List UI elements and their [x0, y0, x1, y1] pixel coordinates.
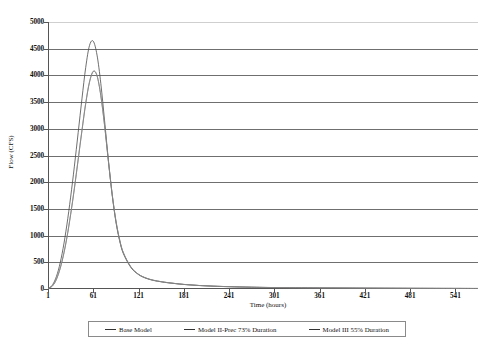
x-axis-tick-label: 301 — [269, 292, 280, 300]
x-axis-tick-label: 121 — [133, 292, 144, 300]
legend-label: Model II-Prec 73% Duration — [198, 326, 276, 333]
x-axis-tick-label: 241 — [224, 292, 235, 300]
series-line — [48, 71, 478, 288]
x-axis-tick-label: 481 — [405, 292, 416, 300]
x-axis-tick-mark — [455, 289, 456, 293]
y-axis-tick-mark — [44, 262, 49, 263]
x-axis-tick-label: 361 — [314, 292, 325, 300]
x-axis-title-text: Time (hours) — [250, 301, 287, 309]
x-axis-tick-mark — [274, 289, 275, 293]
y-axis-title-text: Flow (CFS) — [7, 135, 15, 168]
legend-swatch-icon — [184, 329, 195, 330]
legend-swatch-icon — [105, 329, 116, 330]
x-axis-tick-mark — [365, 289, 366, 293]
chart-legend: Base Model Model II-Prec 73% Duration Mo… — [88, 321, 406, 337]
x-axis-tick-mark — [229, 289, 230, 293]
x-axis-tick-mark — [93, 289, 94, 293]
legend-label: Model III 55% Duration — [323, 326, 389, 333]
x-axis-tick-mark — [139, 289, 140, 293]
y-axis-tick-label: 3500 — [30, 98, 44, 106]
y-axis-tick-label: 2000 — [30, 178, 44, 186]
hydrograph-chart: 0500100015002000250030003500400045005000… — [0, 0, 492, 351]
legend-item: Model II-Prec 73% Duration — [184, 326, 276, 333]
x-axis-tick-mark — [184, 289, 185, 293]
x-axis-tick-mark — [320, 289, 321, 293]
y-axis-tick-mark — [44, 236, 49, 237]
y-axis-tick-label: 2500 — [30, 152, 44, 160]
y-axis-tick-mark — [44, 182, 49, 183]
y-axis-tick-mark — [44, 289, 49, 290]
y-axis-tick-mark — [44, 102, 49, 103]
legend-swatch-icon — [309, 329, 320, 330]
y-axis-tick-label: 3000 — [30, 125, 44, 133]
x-axis-tick-label: 541 — [450, 292, 461, 300]
x-axis-tick-label: 421 — [359, 292, 370, 300]
y-axis-title: Flow (CFS) — [7, 117, 15, 187]
y-axis-tick-mark — [44, 49, 49, 50]
y-axis-tick-label: 1500 — [30, 205, 44, 213]
x-axis-title: Time (hours) — [0, 301, 492, 309]
legend-item: Base Model — [105, 326, 152, 333]
y-axis-tick-label: 500 — [34, 258, 44, 266]
y-axis-tick-mark — [44, 209, 49, 210]
x-axis-tick-label: 1 — [46, 292, 50, 300]
series-line — [48, 71, 478, 289]
y-axis-tick-label: 4500 — [30, 45, 44, 53]
y-axis-tick-mark — [44, 75, 49, 76]
series-lines — [48, 22, 478, 289]
series-line — [48, 41, 478, 289]
y-axis-tick-mark — [44, 156, 49, 157]
y-axis-tick-mark — [44, 22, 49, 23]
y-axis-tick-label: 1000 — [30, 232, 44, 240]
legend-label: Base Model — [119, 326, 152, 333]
legend-item: Model III 55% Duration — [309, 326, 389, 333]
x-axis-tick-label: 61 — [90, 292, 97, 300]
x-axis-tick-mark — [410, 289, 411, 293]
y-axis-tick-label: 5000 — [30, 18, 44, 26]
y-axis-tick-mark — [44, 129, 49, 130]
y-axis-tick-label: 4000 — [30, 71, 44, 79]
x-axis-tick-label: 181 — [178, 292, 189, 300]
